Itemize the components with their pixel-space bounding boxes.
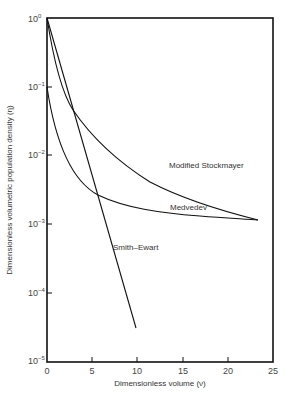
y-axis-title: Dimensionless volumetric population dens… [5,105,14,275]
x-tick-label: 5 [89,366,94,376]
x-tick-label: 20 [223,366,233,376]
x-tick-label: 0 [44,366,49,376]
label-smith-ewart: Smith–Ewart [113,243,159,252]
series-smith-ewart [47,18,136,328]
y-tick-label: 10−1 [28,81,46,92]
y-tick-label: 10−5 [28,355,46,366]
y-tick-label: 100 [28,13,42,24]
x-tick-label: 10 [132,366,142,376]
series-modified-stockmayer [47,18,258,220]
y-tick-label: 10−4 [28,287,46,298]
y-axis: 100 10−1 10−2 10−3 10−4 10−5 [28,13,52,366]
x-axis-title: Dimensionless volume (ν) [114,379,206,388]
chart: 100 10−1 10−2 10−3 10−4 10−5 0 5 10 15 2… [0,0,292,398]
y-tick-label: 10−3 [28,218,46,229]
label-modified-stockmayer: Modified Stockmayer [169,161,244,170]
label-medvedev: Medvedev [170,203,207,212]
x-tick-label: 25 [268,366,278,376]
series-medvedev [47,87,258,220]
x-tick-label: 15 [178,366,188,376]
y-tick-label: 10−2 [28,149,46,160]
plot-frame [47,18,273,362]
